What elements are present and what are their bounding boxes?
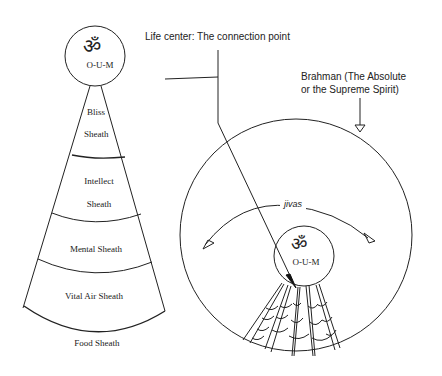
om-label-left: O-U-M [87, 60, 114, 70]
bliss-sheath-label-2: Sheath [84, 129, 109, 139]
sheath-fan [243, 283, 340, 356]
brahman-arrow-head [355, 125, 365, 132]
sheaths-figure: ॐ O-U-M Bliss Sheath Intellect Sheath Me… [23, 26, 165, 348]
intellect-sheath-label-1: Intellect [84, 176, 114, 186]
food-sheath-label: Food Sheath [74, 338, 120, 348]
divider-mental-vital [38, 259, 152, 273]
jivas-arc [205, 205, 368, 245]
koshas-diagram: ॐ O-U-M Bliss Sheath Intellect Sheath Me… [0, 0, 442, 376]
om-symbol-right: ॐ [291, 234, 307, 254]
life-center-pointer [218, 50, 292, 280]
vital-air-sheath-label: Vital Air Sheath [65, 291, 123, 301]
bliss-sheath-label-1: Bliss [87, 107, 106, 117]
divider-vital-food [24, 306, 165, 332]
life-center-bracket [165, 77, 218, 79]
life-center-label: Life center: The connection point [145, 31, 290, 42]
divider-bliss-intellect [72, 155, 125, 158]
brahman-label-2: or the Supreme Spirit) [301, 84, 399, 95]
om-symbol-left: ॐ [83, 35, 101, 57]
jivas-label: jivas [283, 199, 303, 209]
jivas-arrow-right [364, 233, 375, 243]
om-label-right: O-U-M [293, 257, 320, 267]
cone-left-edge [23, 86, 90, 308]
brahman-figure: Life center: The connection point Brahma… [145, 31, 412, 356]
mental-sheath-label: Mental Sheath [70, 244, 123, 254]
brahman-label-1: Brahman (The Absolute [301, 71, 406, 82]
divider-intellect-mental [52, 213, 141, 222]
intellect-sheath-label-2: Sheath [87, 199, 112, 209]
